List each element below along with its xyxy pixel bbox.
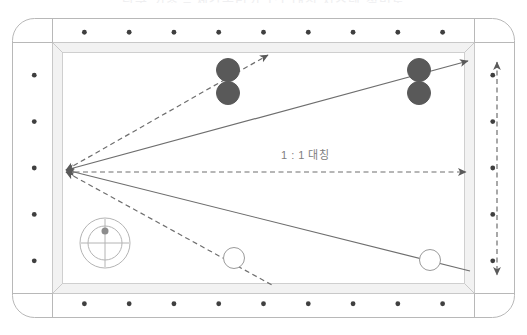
diamond-left-4 (32, 258, 37, 263)
diamond-top-5 (306, 30, 311, 35)
table-playfield (63, 53, 465, 284)
diamond-right-2 (490, 166, 495, 171)
diamond-top-2 (172, 30, 177, 35)
diamond-bottom-6 (351, 301, 356, 306)
diamond-right-0 (490, 73, 495, 78)
red-ball-lower-left (217, 82, 240, 105)
diamond-top-4 (261, 30, 266, 35)
diamond-right-3 (490, 212, 495, 217)
ratio-label: 1 : 1 대칭 (281, 146, 329, 162)
red-ball-upper-right (408, 59, 431, 82)
diamond-bottom-7 (395, 301, 400, 306)
diamond-bottom-3 (216, 301, 221, 306)
red-ball-upper-left (217, 59, 240, 82)
diamond-top-1 (127, 30, 132, 35)
diamond-top-3 (216, 30, 221, 35)
diamond-bottom-1 (127, 301, 132, 306)
cushion-top (53, 43, 475, 53)
diamond-bottom-5 (306, 301, 311, 306)
diamond-left-3 (32, 212, 37, 217)
white-cue-ball-right (420, 250, 441, 271)
diamond-bottom-2 (172, 301, 177, 306)
white-cue-ball-left (224, 248, 245, 269)
diamond-left-2 (32, 166, 37, 171)
diamond-left-0 (32, 73, 37, 78)
aim-point-target-marker (80, 218, 130, 268)
diamond-right-1 (490, 119, 495, 124)
billiard-table-diagram (0, 0, 527, 335)
diamond-top-8 (440, 30, 445, 35)
red-ball-lower-right (408, 82, 431, 105)
diamond-right-4 (490, 258, 495, 263)
diamond-top-0 (82, 30, 87, 35)
table-frame (13, 19, 515, 318)
screenshot-root: 당구 기초 – 제각돌리기 1:1 대칭 시스템 설명도 (0, 0, 527, 335)
diamond-top-7 (395, 30, 400, 35)
diamond-bottom-8 (440, 301, 445, 306)
cushion-right (465, 43, 475, 294)
cushion-left (53, 43, 63, 294)
cushion-bottom (53, 284, 475, 294)
diamond-left-1 (32, 119, 37, 124)
target-center-dot (102, 228, 109, 235)
diamond-bottom-0 (82, 301, 87, 306)
diamond-top-6 (351, 30, 356, 35)
diamond-bottom-4 (261, 301, 266, 306)
